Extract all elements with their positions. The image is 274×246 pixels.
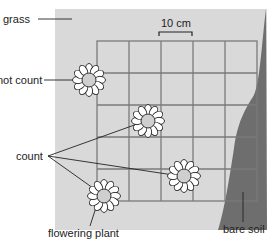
count-label: count (16, 150, 43, 162)
quadrat-diagram (0, 0, 274, 246)
grass-label: grass (3, 13, 30, 25)
bare-soil-label: bare soil (223, 223, 265, 235)
scale-label: 10 cm (161, 17, 191, 29)
flowering-plant-label: flowering plant (48, 227, 119, 239)
not-count-label: not count (0, 74, 42, 86)
